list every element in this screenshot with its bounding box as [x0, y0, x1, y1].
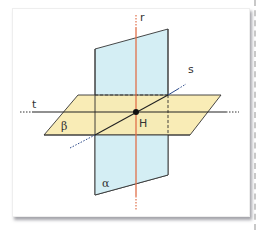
label-alpha: α [102, 177, 110, 190]
figure-stage: r s t β H α [0, 0, 258, 230]
label-beta: β [61, 120, 67, 133]
line-s-upper [168, 89, 178, 95]
line-s-dotted-upper [178, 84, 186, 89]
label-r: r [140, 11, 145, 24]
label-H: H [139, 117, 147, 130]
label-t: t [32, 98, 37, 111]
line-s-dotted-lower [70, 135, 95, 148]
point-H [133, 109, 139, 115]
planes-diagram: r s t β H α [0, 0, 258, 230]
label-s: s [188, 63, 194, 76]
